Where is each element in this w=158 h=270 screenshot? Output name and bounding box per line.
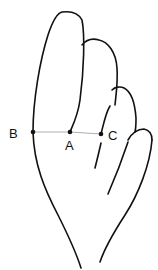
point-b	[31, 130, 36, 135]
label-a: A	[65, 138, 74, 153]
middle-finger-outline	[82, 39, 117, 105]
palm-left-edge	[33, 132, 81, 268]
thumb-outline	[128, 129, 152, 140]
index-finger-outline	[33, 12, 84, 132]
label-c: C	[108, 128, 117, 143]
label-b: B	[9, 126, 18, 141]
point-a	[68, 130, 73, 135]
palm-right-edge	[100, 140, 152, 262]
hand-diagram: B A C	[0, 0, 158, 270]
point-c	[99, 132, 104, 137]
palm-crease-1	[95, 143, 101, 168]
measure-line-a-c	[70, 132, 101, 134]
palm-crease-2	[108, 142, 128, 194]
